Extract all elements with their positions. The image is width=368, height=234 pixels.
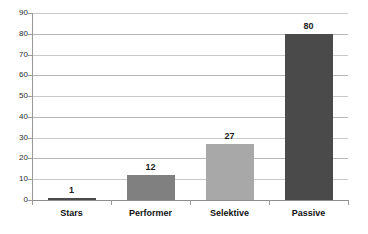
y-tick-label-50: 50 [4,92,28,100]
bar-slot: 1 [32,13,111,200]
y-tick-label-60: 60 [4,71,28,79]
y-tick-label-90: 90 [4,9,28,17]
bar-slot: 27 [190,13,269,200]
y-tick-label-70: 70 [4,51,28,59]
category-label-performer: Performer [111,208,190,219]
bar-slot: 12 [111,13,190,200]
bar-stars[interactable] [48,198,96,200]
bar-chart: 9080706050403020100 1122780 StarsPerform… [0,0,368,234]
x-axis-category-labels: StarsPerformerSelektivePassive [32,208,348,224]
bar-value-label-stars: 1 [69,186,74,195]
bar-passive[interactable] [285,34,333,200]
bar-selektive[interactable] [206,144,254,200]
y-axis-ticks: 9080706050403020100 [0,0,28,234]
y-tick-label-10: 10 [4,175,28,183]
bars-layer: 1122780 [32,13,348,200]
bar-slot: 80 [269,13,348,200]
y-tick-label-0: 0 [4,196,28,204]
category-label-passive: Passive [269,208,348,219]
bar-value-label-selektive: 27 [224,132,234,141]
x-tick-mark [111,200,112,205]
x-tick-mark [269,200,270,205]
bar-value-label-passive: 80 [303,22,313,31]
x-tick-mark [348,200,349,205]
x-tick-mark [190,200,191,205]
y-tick-label-40: 40 [4,113,28,121]
x-tick-mark [32,200,33,205]
category-label-stars: Stars [32,208,111,219]
y-tick-label-30: 30 [4,134,28,142]
bar-performer[interactable] [127,175,175,200]
y-tick-label-20: 20 [4,154,28,162]
y-tick-label-80: 80 [4,30,28,38]
category-label-selektive: Selektive [190,208,269,219]
bar-value-label-performer: 12 [145,163,155,172]
